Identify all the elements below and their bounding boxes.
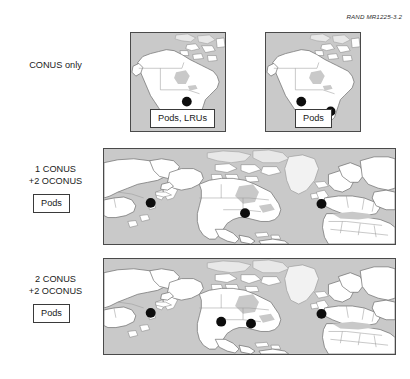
scenario-label-1-conus-2-oconus: 1 CONUS +2 OCONUS xyxy=(8,164,103,187)
callout-pods-1-conus: Pods xyxy=(33,194,70,213)
map-world-graphic xyxy=(104,149,395,244)
map-world-2-conus-2-oconus xyxy=(103,258,396,355)
map-world-graphic xyxy=(104,259,395,354)
callout-pods-2-conus: Pods xyxy=(33,304,70,323)
callout-pods-lrus: Pods, LRUs xyxy=(150,109,215,128)
callout-pods-na: Pods xyxy=(295,109,332,128)
scenario-row-conus-only: CONUS only xyxy=(0,28,410,140)
scenario-row-2-conus-2-oconus: 2 CONUS +2 OCONUS Pods xyxy=(0,256,410,360)
scenario-label-line: CONUS only xyxy=(8,60,103,72)
scenario-row-1-conus-2-oconus: 1 CONUS +2 OCONUS Pods xyxy=(0,146,410,250)
scenario-label-conus-only: CONUS only xyxy=(8,60,103,72)
scenario-label-line: +2 OCONUS xyxy=(8,176,103,188)
scenario-label-line: 2 CONUS xyxy=(8,274,103,286)
map-world-1-conus-2-oconus xyxy=(103,148,396,245)
figure-credit: RAND MR1225-3.2 xyxy=(346,13,402,20)
scenario-label-line: 1 CONUS xyxy=(8,164,103,176)
scenario-label-2-conus-2-oconus: 2 CONUS +2 OCONUS xyxy=(8,274,103,297)
scenario-label-line: +2 OCONUS xyxy=(8,286,103,298)
